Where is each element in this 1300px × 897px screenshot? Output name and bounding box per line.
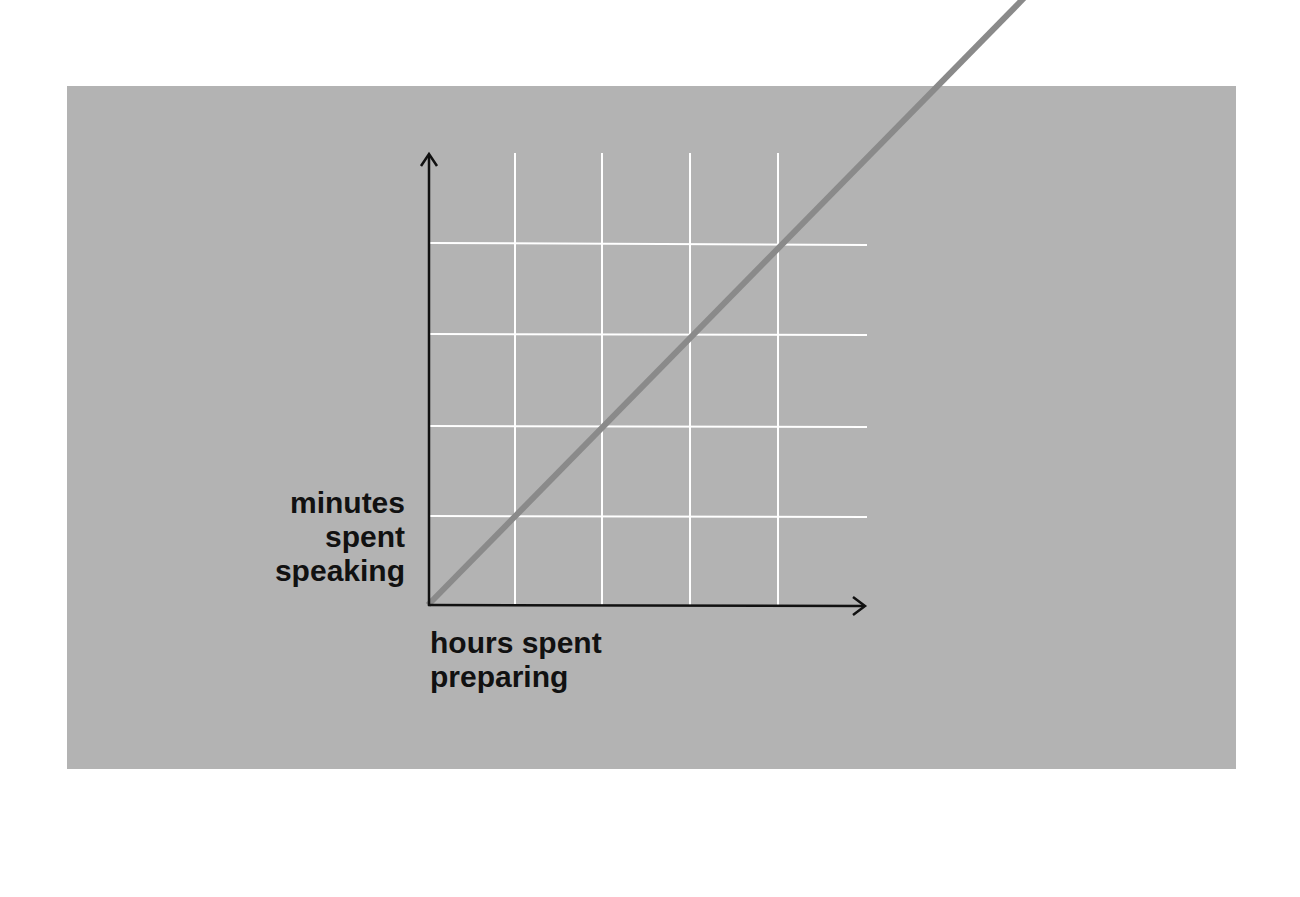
y-axis-label-line: spent [275,520,405,554]
gridline-horizontal [430,243,867,245]
x-axis [428,605,864,606]
x-axis-label: hours spent preparing [430,626,602,694]
gridline-horizontal [430,334,867,335]
y-axis-label-line: minutes [275,486,405,520]
trend-line [428,0,1024,605]
y-axis-label: minutes spent speaking [275,486,405,588]
x-axis-label-line: preparing [430,660,602,694]
gridline-horizontal [430,426,867,427]
y-axis-label-line: speaking [275,554,405,588]
chart-svg [0,0,1300,897]
x-axis-label-line: hours spent [430,626,602,660]
gridline-horizontal [430,516,867,517]
